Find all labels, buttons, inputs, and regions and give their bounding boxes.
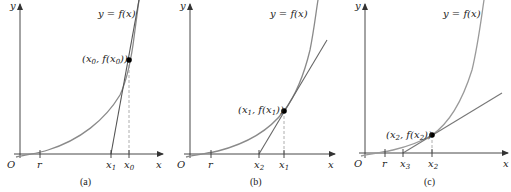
x-axis-label: x — [503, 158, 509, 169]
curve-label: y = f(x) — [269, 8, 308, 19]
tick-label-x3: x3 — [400, 158, 411, 171]
point-label: (x1, f(x1)) — [238, 104, 284, 117]
tangent-line — [403, 93, 502, 153]
origin-label: O — [177, 159, 185, 170]
caption-c: (c) — [424, 176, 435, 188]
tick-label-x0: x0 — [124, 159, 135, 172]
tangent-line — [111, 0, 139, 154]
panel-c: y O x r x3 x2 y = f(x) (x2, f(x2)) (c) — [354, 0, 509, 188]
curve-label: y = f(x) — [97, 8, 136, 19]
panel-b: y O x r x2 x1 y = f(x) (x1, f(x1)) (b) — [177, 0, 335, 188]
panel-a: y O x r x1 x0 y = f(x) (x0, f(x0)) (a) — [7, 0, 163, 188]
x-axis-label: x — [328, 159, 334, 170]
x-axis-label: x — [156, 159, 162, 170]
tick-label-x1: x1 — [106, 159, 116, 172]
caption-b: (b) — [250, 176, 262, 188]
function-curve — [16, 0, 139, 157]
tangent-line — [259, 40, 327, 154]
function-curve — [361, 0, 484, 156]
newtons-method-diagram: y O x r x1 x0 y = f(x) (x0, f(x0)) (a) y… — [0, 0, 511, 192]
tick-label-x2: x2 — [254, 159, 265, 172]
function-curve — [186, 0, 318, 157]
y-axis-label: y — [354, 0, 361, 11]
caption-a: (a) — [80, 176, 91, 188]
origin-label: O — [7, 159, 15, 170]
y-axis-label: y — [179, 0, 186, 11]
y-axis-label: y — [9, 0, 16, 11]
curve-label: y = f(x) — [442, 8, 481, 19]
tick-label-r: r — [37, 159, 43, 170]
tick-label-r: r — [208, 159, 214, 170]
tick-label-x1: x1 — [279, 159, 289, 172]
point-label: (x0, f(x0)) — [82, 53, 128, 66]
tick-label-x2: x2 — [428, 158, 439, 171]
tick-label-r: r — [382, 158, 388, 169]
origin-label: O — [354, 158, 362, 169]
